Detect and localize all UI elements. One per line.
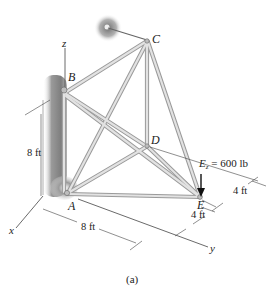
load-label: Ez = 600 lb xyxy=(199,158,248,171)
dimension-e-side: 4 ft xyxy=(233,186,247,197)
coordinate-axes xyxy=(16,196,208,247)
point-label-c: C xyxy=(152,33,160,45)
joints xyxy=(61,39,202,200)
dimension-e-lower: 4 ft xyxy=(191,210,205,221)
point-label-a: A xyxy=(68,200,75,212)
ball-socket-support-c xyxy=(94,14,147,42)
dimension-horizontal-ae: 8 ft xyxy=(81,222,95,233)
figure-caption: (a) xyxy=(126,274,138,285)
axis-label-y: y xyxy=(210,243,215,254)
load-value: = 600 lb xyxy=(208,157,248,169)
point-label-d: D xyxy=(151,134,160,146)
axis-label-x: x xyxy=(9,225,14,236)
truss-figure: C B D A E z x y Ez = 600 lb 8 ft 8 ft 4 … xyxy=(0,0,274,304)
dimension-vertical-ab: 8 ft xyxy=(27,148,41,159)
point-label-b: B xyxy=(68,71,75,83)
load-symbol: E xyxy=(199,157,206,169)
truss-members xyxy=(64,41,200,197)
axis-label-z: z xyxy=(62,38,66,49)
